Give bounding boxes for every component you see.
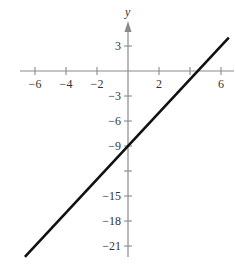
line-chart: −6−4−226 3−3−6−9−15−18−21 y (0, 0, 236, 278)
x-tick-label: −4 (60, 77, 73, 91)
y-tick-label: −3 (108, 89, 121, 103)
x-tick-label: 2 (156, 77, 162, 91)
y-tick-label: −21 (102, 239, 121, 253)
y-axis-title: y (124, 5, 131, 19)
arrow-up-icon (125, 21, 132, 32)
y-tick-label: −9 (108, 139, 121, 153)
y-axis (125, 21, 132, 257)
x-tick-label: −2 (91, 77, 104, 91)
y-tick-label: −18 (102, 214, 121, 228)
y-tick-label: 3 (115, 39, 121, 53)
y-tick-label: −6 (108, 114, 121, 128)
x-tick-label: 6 (218, 77, 224, 91)
y-tick-label: −15 (102, 189, 121, 203)
x-tick-label: −6 (29, 77, 42, 91)
